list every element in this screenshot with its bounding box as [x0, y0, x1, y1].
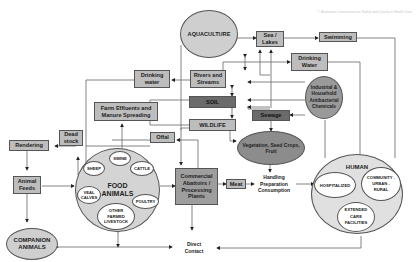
node-drinking-water-left: Drinking water	[134, 70, 170, 88]
node-handling: Handling Preparation Consumption	[252, 174, 296, 194]
node-commercial-abattoirs: Commercial Abattoirs / Processing Plants	[175, 168, 218, 205]
node-sea-lakes: Sea / Lakes	[256, 31, 284, 47]
node-poultry: POULTRY	[132, 194, 159, 209]
node-soil: SOIL	[189, 96, 236, 108]
node-veal-calves: VEAL CALVES	[77, 186, 101, 204]
node-animal-feeds: Animal Feeds	[13, 176, 41, 194]
node-direct-contact: Direct Contact	[174, 241, 214, 254]
node-community: COMMUNITY -URBAN -RURAL	[361, 167, 401, 201]
node-dead-stock: Dead stock	[59, 130, 83, 146]
node-vegetation: Vegetation, Seed Crops, Fruit	[237, 131, 305, 165]
node-sheep: SHEEP	[83, 161, 105, 176]
node-drinking-water-right: Drinking Water	[291, 53, 328, 71]
node-other-livestock: OTHER FARMED LIVESTOCK	[97, 203, 135, 230]
node-meat: Meat	[226, 179, 246, 189]
node-hospitalized: HOSPITALIZED	[314, 172, 356, 198]
node-farm-effluents: Farm Effluents and Manure Spreading	[94, 102, 158, 121]
node-offal: Offal	[150, 132, 175, 143]
node-swimming: Swimming	[319, 32, 357, 42]
node-aquaculture: AQUACULTURE	[180, 10, 238, 58]
node-wildlife: WILDLIFE	[189, 119, 236, 131]
node-companion-animals: COMPANION ANIMALS	[6, 228, 58, 260]
node-industrial-chemicals: Industrial & Household Antibacterial Che…	[305, 76, 343, 119]
node-cattle: CATTLE	[130, 161, 154, 176]
node-swine: SWINE	[109, 151, 131, 166]
node-rivers-streams: Rivers and Streams	[190, 70, 226, 88]
node-extended-care: EXTENDED CARE FACILITIES	[337, 202, 375, 232]
node-sewage: Sewage	[252, 110, 290, 121]
node-rendering: Rendering	[9, 140, 49, 151]
